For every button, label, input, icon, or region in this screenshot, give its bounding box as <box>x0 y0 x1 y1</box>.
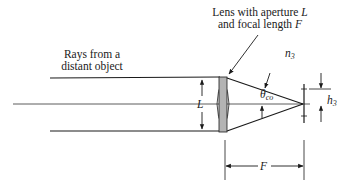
lens-label-line1: Lens with aperture L <box>200 6 320 18</box>
lens-label-text2: and focal length <box>218 18 295 30</box>
lens-label-line2: and focal length F <box>200 18 320 30</box>
lens-focal-var: F <box>295 18 302 30</box>
height-subscript: 3 <box>333 99 337 108</box>
top-ray <box>50 77 220 78</box>
angle-arrow-top <box>265 73 270 88</box>
lens-body <box>219 77 227 132</box>
lens-label-text1: Lens with aperture <box>212 6 301 18</box>
angle-label: θco <box>260 88 273 104</box>
lens-leader <box>229 35 258 74</box>
aperture-label: L <box>197 98 203 110</box>
bottom-converging-ray <box>227 104 303 131</box>
focal-length-label: F <box>260 160 267 172</box>
medium-label: n3 <box>285 47 295 63</box>
rays-label-line1: Rays from a <box>52 48 132 60</box>
lens-aperture-var: L <box>301 6 307 18</box>
lens-label: Lens with aperture L and focal length F <box>200 6 320 30</box>
theta-subscript: co <box>266 93 274 102</box>
rays-label: Rays from a distant object <box>52 48 132 72</box>
height-label: h3 <box>327 94 337 110</box>
rays-label-line2: distant object <box>52 60 132 72</box>
medium-subscript: 3 <box>291 52 295 61</box>
